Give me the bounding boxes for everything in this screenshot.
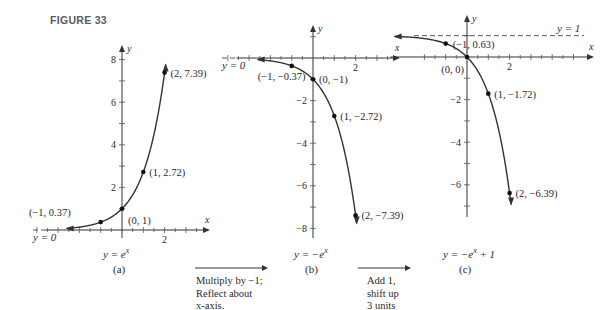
data-point xyxy=(332,114,337,119)
y-tick-label: 2 xyxy=(111,182,116,193)
transition-text-line: x-axis. xyxy=(196,300,224,310)
data-label: (2, 7.39) xyxy=(171,68,207,80)
transition-text-line: Multiply by −1; xyxy=(196,275,263,286)
y-tick-label: −4 xyxy=(296,138,307,149)
data-label: (1, 2.72) xyxy=(149,167,185,179)
data-point xyxy=(311,77,316,82)
arrow-right-icon xyxy=(405,265,411,271)
y-tick-label: −8 xyxy=(296,223,307,234)
data-label: (2, −6.39) xyxy=(516,188,558,200)
data-point xyxy=(141,170,146,175)
asymptote-label: y = 0 xyxy=(32,231,57,243)
data-point xyxy=(289,64,294,69)
y-axis-arrow-icon xyxy=(464,15,470,22)
figure-33: FIGURE 33 xy22468y = 0(−1, 0.37)(0, 1)(1… xyxy=(0,0,615,310)
data-label: (2, −7.39) xyxy=(362,210,404,222)
data-label: (−1, 0.63) xyxy=(453,39,495,51)
x-axis-arrow-icon xyxy=(393,55,400,61)
curve-arrow-up-icon xyxy=(163,64,169,72)
panel-equation: y = −ex xyxy=(293,246,328,260)
y-tick-label: −4 xyxy=(450,137,461,148)
panel-label: (c) xyxy=(459,263,472,276)
asymptote-label: y = 1 xyxy=(556,22,580,34)
data-point xyxy=(486,91,491,96)
y-axis-label: y xyxy=(471,13,477,24)
panel-c: xy2−2−4−6y = 1(−1, 0.63)(0, 0)(1, −1.72)… xyxy=(390,13,594,276)
data-label: (0, 0) xyxy=(441,64,464,76)
data-label: (1, −1.72) xyxy=(494,89,536,101)
y-tick-label: −6 xyxy=(296,180,307,191)
curve-arrow-left-icon xyxy=(66,225,74,231)
transition-shift: Add 1, shift up 3 units xyxy=(358,265,411,310)
transition-text-line: Reflect about xyxy=(196,288,252,299)
x-tick-label: 2 xyxy=(507,61,512,72)
data-point xyxy=(443,41,448,46)
transition-reflect: Multiply by −1; Reflect about x-axis. xyxy=(195,265,268,310)
data-point xyxy=(162,70,167,75)
y-tick-label: −2 xyxy=(296,95,307,106)
y-tick-label: −2 xyxy=(450,94,461,105)
curve-arrow-left-icon xyxy=(257,57,265,63)
data-point xyxy=(507,191,512,196)
data-label: (−1, 0.37) xyxy=(29,207,71,219)
y-tick-label: 8 xyxy=(111,54,116,65)
data-point xyxy=(353,213,358,218)
transition-text-line: shift up xyxy=(367,288,399,299)
panel-equation: y = ex xyxy=(102,246,130,260)
data-label: (0, 1) xyxy=(128,215,151,227)
y-axis-label: y xyxy=(317,23,323,34)
data-point xyxy=(465,55,470,60)
y-tick-label: 4 xyxy=(111,139,116,150)
x-tick-label: 2 xyxy=(162,234,167,245)
arrow-right-icon xyxy=(262,265,268,271)
panel-equation: y = −ex + 1 xyxy=(442,246,495,260)
curve-arrow-left-icon xyxy=(394,33,402,39)
panel-label: (a) xyxy=(113,263,126,276)
y-tick-label: −6 xyxy=(450,179,461,190)
data-point xyxy=(98,220,103,225)
x-axis-arrow-icon xyxy=(587,54,594,60)
panel-a: xy22468y = 0(−1, 0.37)(0, 1)(1, 2.72)(2,… xyxy=(29,43,210,276)
x-axis-label: x xyxy=(588,41,594,52)
curve-arrow-down-icon xyxy=(354,216,360,224)
x-axis-arrow-icon xyxy=(203,227,210,233)
figure-title: FIGURE 33 xyxy=(50,14,107,26)
x-tick-label: 2 xyxy=(353,62,358,73)
y-axis-arrow-icon xyxy=(310,25,316,32)
x-axis-label: x xyxy=(204,214,210,225)
panel-label: (b) xyxy=(305,263,318,276)
y-tick-label: 6 xyxy=(111,97,116,108)
x-axis-label: x xyxy=(394,42,400,53)
y-axis-arrow-icon xyxy=(119,45,125,52)
y-axis-label: y xyxy=(126,43,132,54)
curve-arrow-down-icon xyxy=(508,197,514,205)
data-label: (−1, −0.37) xyxy=(258,71,306,83)
asymptote-label: y = 0 xyxy=(221,59,246,71)
transition-text-line: 3 units xyxy=(367,300,395,310)
function-curve xyxy=(67,65,166,229)
data-label: (1, −2.72) xyxy=(340,111,382,123)
panel-b: xy2−2−4−6−8y = 0(−1, −0.37)(0, −1)(1, −2… xyxy=(221,23,404,276)
transition-text-line: Add 1, xyxy=(367,275,396,286)
data-label: (0, −1) xyxy=(319,74,348,86)
data-point xyxy=(120,206,125,211)
